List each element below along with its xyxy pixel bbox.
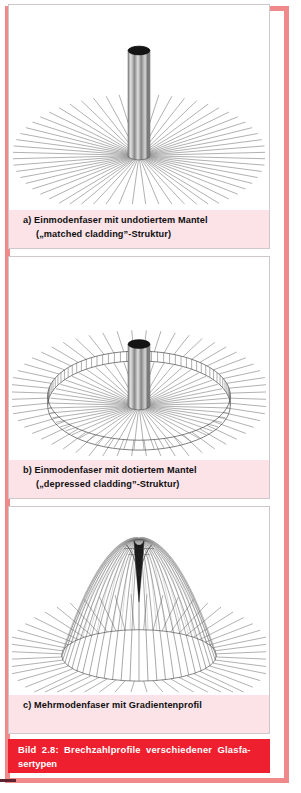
figure-caption-bar: Bild 2.8: Brechzahlprofile verschiedener… (8, 739, 270, 773)
graded-index-profile (9, 507, 269, 695)
figure-inner-area: a) Einmodenfaser mit undotiertem Mantel … (8, 4, 270, 769)
panel-a-caption-line1: a) Einmodenfaser mit undotiertem Mantel (23, 214, 269, 228)
matched-cladding-profile (9, 5, 269, 210)
depressed-cladding-profile (9, 257, 269, 460)
panel-c-caption-line1: c) Mehrmodenfaser mit Gradientenprofil (23, 699, 269, 713)
figure-bild-2-8: a) Einmodenfaser mit undotiertem Mantel … (0, 0, 301, 793)
panel-a-caption-line2: („matched cladding”-Struktur) (23, 228, 269, 242)
panel-c-graded-index: c) Mehrmodenfaser mit Gradientenprofil (8, 506, 270, 734)
panel-a-caption: a) Einmodenfaser mit undotiertem Mantel … (9, 210, 269, 248)
panel-b-caption-line1: b) Einmodenfaser mit dotiertem Mantel (23, 464, 269, 478)
page-corner-mark (0, 779, 16, 782)
figure-caption-line2: sertypen (18, 757, 264, 771)
figure-caption-line1: Bild 2.8: Brechzahlprofile verschiedener… (18, 743, 264, 757)
panel-b-caption-line2: („depressed cladding”-Struktur) (23, 478, 269, 492)
panel-a-matched-cladding: a) Einmodenfaser mit undotiertem Mantel … (8, 4, 270, 249)
panel-c-caption: c) Mehrmodenfaser mit Gradientenprofil (9, 695, 269, 733)
panel-b-caption: b) Einmodenfaser mit dotiertem Mantel („… (9, 460, 269, 498)
panel-b-depressed-cladding: b) Einmodenfaser mit dotiertem Mantel („… (8, 256, 270, 499)
